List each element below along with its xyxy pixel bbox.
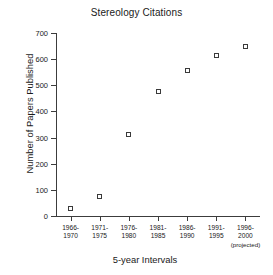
y-tick	[51, 138, 56, 139]
x-tick	[100, 216, 101, 221]
x-tick	[129, 216, 130, 221]
data-point	[156, 89, 161, 94]
x-tick	[187, 216, 188, 221]
x-tick	[216, 216, 217, 221]
chart-container: Stereology Citations 0100200300400500600…	[0, 0, 273, 275]
x-tick	[158, 216, 159, 221]
y-tick	[51, 59, 56, 60]
y-tick	[51, 190, 56, 191]
data-point	[214, 53, 219, 58]
data-point	[97, 194, 102, 199]
y-tick	[51, 85, 56, 86]
y-tick	[51, 111, 56, 112]
data-point	[243, 44, 248, 49]
x-axis-label: 5-year Intervals	[30, 254, 260, 265]
x-tick	[71, 216, 72, 221]
y-tick	[51, 164, 56, 165]
y-axis-line	[56, 33, 57, 217]
chart-title: Stereology Citations	[0, 7, 273, 18]
data-point	[126, 132, 131, 137]
y-tick-label: 0	[18, 212, 48, 221]
data-point	[185, 68, 190, 73]
y-tick	[51, 33, 56, 34]
y-tick	[51, 216, 56, 217]
data-point	[68, 206, 73, 211]
x-tick-note: (projected)	[225, 241, 265, 249]
x-tick-label: 1996- 2000(projected)	[225, 224, 265, 249]
y-axis-label: Number of Papers Published	[24, 19, 35, 209]
x-tick	[245, 216, 246, 221]
